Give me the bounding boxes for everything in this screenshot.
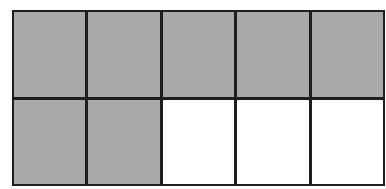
shaded-cell (88, 12, 159, 97)
shaded-cell (14, 12, 85, 97)
unshaded-cell (237, 100, 308, 185)
unshaded-cell (163, 100, 234, 185)
shaded-cell (163, 12, 234, 97)
shaded-cell (88, 100, 159, 185)
shaded-cell (312, 12, 383, 97)
fraction-grid (12, 10, 385, 186)
shaded-cell (237, 12, 308, 97)
unshaded-cell (312, 100, 383, 185)
shaded-cell (14, 100, 85, 185)
